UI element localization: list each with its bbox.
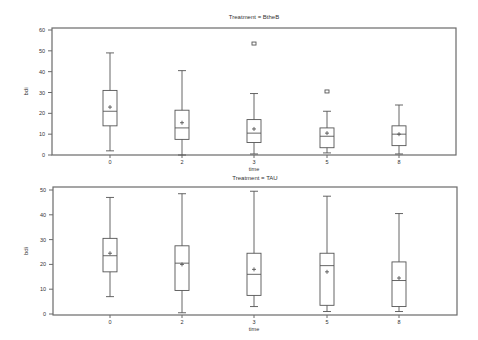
y-tick-label: 60 [39, 27, 45, 33]
panel-title: Treatment = BtheB [229, 14, 279, 20]
outlier-marker [325, 90, 329, 93]
box-time-8 [392, 214, 406, 312]
x-tick-label: 0 [108, 159, 111, 165]
x-tick-label: 5 [325, 319, 328, 325]
boxplot-figure: Treatment = BtheB0102030405060bdi02358ti… [0, 0, 478, 340]
x-tick-label: 0 [108, 319, 111, 325]
y-axis-label: bdi [23, 247, 29, 255]
y-tick-label: 10 [39, 131, 45, 137]
x-tick-label: 3 [252, 159, 255, 165]
box-time-0 [103, 53, 117, 151]
y-tick-label: 30 [39, 90, 45, 96]
iqr-box [392, 262, 406, 307]
box-time-3 [247, 42, 261, 154]
y-tick-label: 20 [40, 261, 46, 267]
iqr-box [320, 253, 334, 305]
iqr-box [247, 120, 261, 143]
iqr-box [175, 246, 189, 291]
y-tick-label: 40 [39, 69, 45, 75]
box-time-5 [320, 196, 334, 311]
boxplot-panel-tau: Treatment = TAU01020304050bdi02358time [23, 175, 457, 332]
x-tick-label: 2 [180, 319, 183, 325]
x-tick-label: 8 [397, 159, 400, 165]
box-time-2 [175, 194, 189, 313]
y-tick-label: 0 [43, 311, 46, 317]
boxplot-panel-btheb: Treatment = BtheB0102030405060bdi02358ti… [23, 14, 456, 172]
x-tick-label: 8 [397, 319, 400, 325]
y-tick-label: 30 [40, 237, 46, 243]
x-tick-label: 3 [252, 319, 255, 325]
x-axis-label: time [249, 166, 259, 172]
box-time-2 [175, 71, 189, 155]
y-axis-label: bdi [23, 87, 29, 95]
box-time-8 [392, 105, 406, 154]
outlier-marker [252, 42, 256, 45]
y-tick-label: 40 [40, 212, 46, 218]
iqr-box [320, 128, 334, 148]
box-time-0 [103, 197, 117, 296]
box-time-3 [247, 191, 261, 306]
y-tick-label: 50 [40, 187, 46, 193]
x-tick-label: 2 [180, 159, 183, 165]
panel-title: Treatment = TAU [232, 175, 277, 181]
x-axis-label: time [249, 326, 259, 332]
y-tick-label: 20 [39, 110, 45, 116]
iqr-box [175, 110, 189, 139]
y-tick-label: 0 [42, 152, 45, 158]
box-time-5 [320, 90, 334, 153]
y-tick-label: 10 [40, 286, 46, 292]
x-tick-label: 5 [325, 159, 328, 165]
y-tick-label: 50 [39, 48, 45, 54]
